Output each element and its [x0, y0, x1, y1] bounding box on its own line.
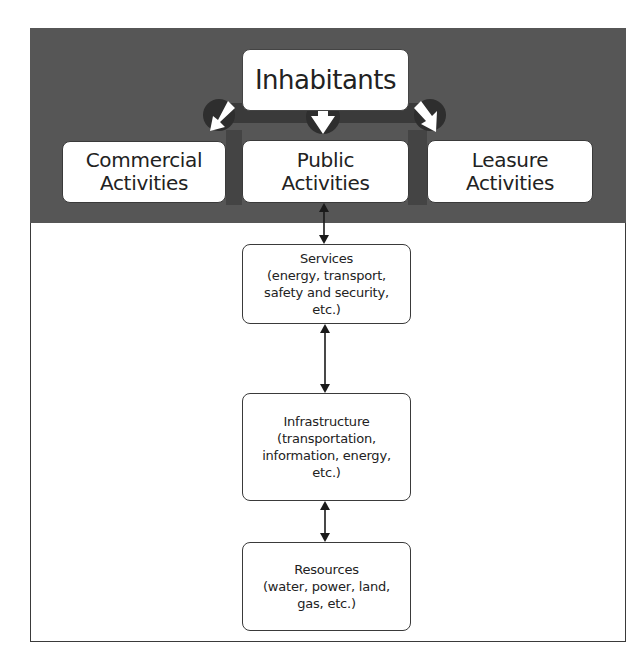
public-activities-box: Public Activities	[242, 140, 409, 203]
services-title: Services	[264, 250, 389, 267]
infrastructure-line: etc.)	[262, 464, 391, 481]
infrastructure-title: Infrastructure	[262, 413, 391, 430]
resources-line: (water, power, land,	[263, 578, 390, 595]
leasure-line2: Activities	[466, 172, 554, 195]
resources-title: Resources	[263, 561, 390, 578]
leasure-activities-box: Leasure Activities	[427, 140, 593, 203]
commercial-line2: Activities	[86, 172, 203, 195]
services-line: safety and security,	[264, 284, 389, 301]
leasure-line1: Leasure	[466, 149, 554, 172]
inhabitants-label: Inhabitants	[255, 65, 396, 95]
inhabitants-box: Inhabitants	[242, 49, 409, 111]
services-line: (energy, transport,	[264, 267, 389, 284]
resources-line: gas, etc.)	[263, 595, 390, 612]
services-box: Services (energy, transport, safety and …	[242, 244, 411, 324]
services-line: etc.)	[264, 301, 389, 318]
public-line1: Public	[281, 149, 369, 172]
resources-box: Resources (water, power, land, gas, etc.…	[242, 542, 411, 631]
commercial-activities-box: Commercial Activities	[62, 141, 226, 203]
infrastructure-line: information, energy,	[262, 447, 391, 464]
infrastructure-box: Infrastructure (transportation, informat…	[242, 393, 411, 501]
infrastructure-line: (transportation,	[262, 430, 391, 447]
public-line2: Activities	[281, 172, 369, 195]
commercial-line1: Commercial	[86, 149, 203, 172]
